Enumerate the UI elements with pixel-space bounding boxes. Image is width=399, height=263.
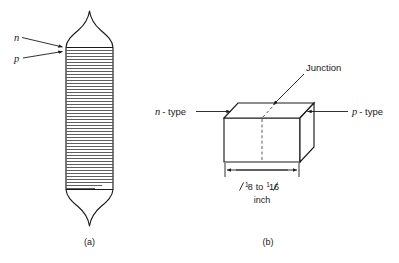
figure-canvas: n p (a) Junction n- type p- bbox=[0, 0, 399, 263]
leader-n bbox=[22, 38, 63, 48]
figure-b-group: Junction n- type p- type 18to116 inch bbox=[155, 62, 383, 247]
ingot-outline bbox=[66, 11, 113, 226]
label-p: p bbox=[13, 53, 19, 64]
caption-a: (a) bbox=[84, 237, 95, 247]
box-top-face bbox=[224, 103, 314, 118]
dimension-unit-text: inch bbox=[254, 195, 271, 205]
label-n: n bbox=[14, 32, 19, 43]
leader-junction bbox=[274, 74, 305, 105]
label-p-type: p- type bbox=[351, 106, 383, 117]
ingot-hatching bbox=[67, 51, 113, 189]
label-junction: Junction bbox=[306, 62, 341, 73]
dimension-line bbox=[225, 163, 299, 177]
label-n-type: n- type bbox=[155, 106, 186, 117]
semiconductor-junction-figure: n p (a) Junction n- type p- bbox=[0, 0, 399, 263]
caption-b: (b) bbox=[263, 237, 274, 247]
leader-p bbox=[23, 52, 63, 59]
figure-a-group: n p (a) bbox=[13, 11, 113, 247]
